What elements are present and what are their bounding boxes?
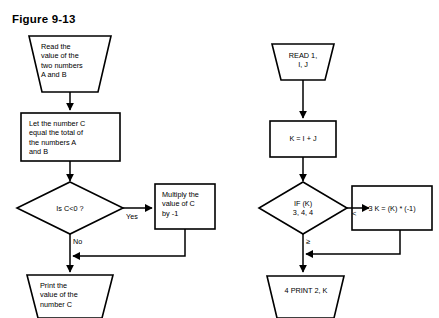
node-read-1[interactable] <box>272 44 334 80</box>
node-read-ab[interactable] <box>29 36 111 92</box>
node-print-c[interactable] <box>27 275 113 318</box>
node-print-2[interactable] <box>267 276 344 318</box>
edge-multiply-to-merge <box>73 229 185 256</box>
flowchart-canvas <box>0 0 439 318</box>
edge-negate-to-merge <box>306 230 400 254</box>
node-multiply-c[interactable] <box>155 184 215 229</box>
node-k-sum[interactable] <box>270 121 336 157</box>
node-if-k[interactable] <box>259 182 347 234</box>
node-let-c[interactable] <box>21 113 120 161</box>
node-is-c-negative[interactable] <box>17 182 123 234</box>
